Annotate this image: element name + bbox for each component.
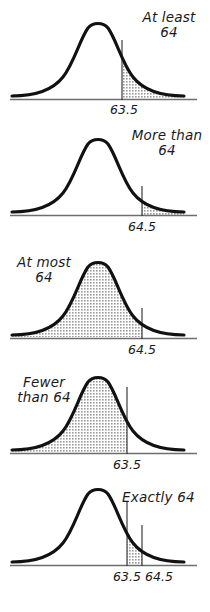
boundary-label-63-5: 63.5 (111, 457, 143, 472)
panel-fewer-than-64: Fewer than 64 63.5 (0, 363, 210, 485)
figure-sheet: At least 64 63.5 More than 64 64.5 (0, 0, 210, 612)
panel-caption: At most 64 (8, 255, 80, 285)
panel-at-least-64: At least 64 63.5 (0, 0, 210, 122)
boundary-label-64-5: 64.5 (126, 219, 158, 234)
boundary-label-63-5: 63.5 (108, 102, 140, 117)
panel-caption: Exactly 64 (122, 490, 210, 505)
panel-exactly-64: Exactly 64 63.5 64.5 (0, 487, 210, 609)
boundary-label-64-5: 64.5 (142, 569, 176, 584)
panel-at-most-64: At most 64 64.5 (0, 243, 210, 365)
panel-caption: Fewer than 64 (8, 375, 80, 405)
panel-more-than-64: More than 64 64.5 (0, 120, 210, 242)
panel-caption: More than 64 (127, 128, 207, 158)
curve-diagram-exactly-64 (0, 487, 210, 609)
boundary-label-63-5: 63.5 (110, 569, 144, 584)
panel-caption: At least 64 (133, 10, 205, 40)
boundary-label-64-5: 64.5 (126, 342, 158, 357)
